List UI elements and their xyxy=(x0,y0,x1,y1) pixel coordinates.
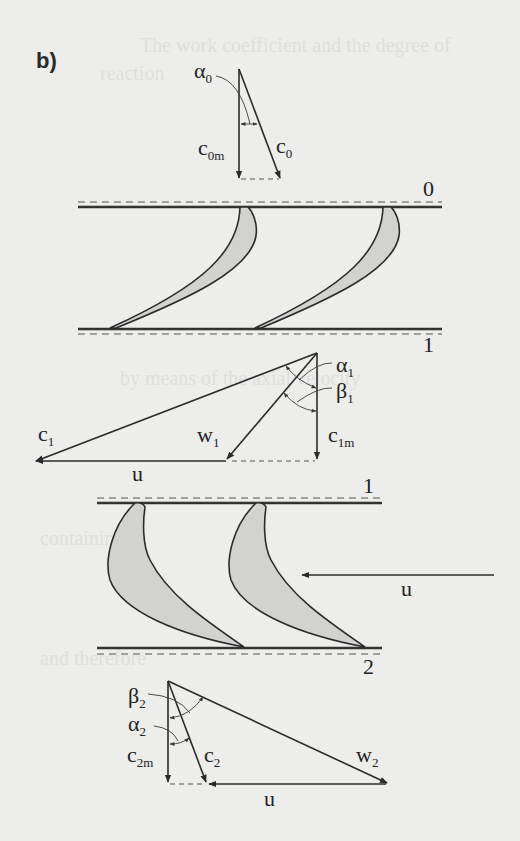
blade-speed-label: u xyxy=(401,576,412,601)
stage2-velocity-triangle: β2 α2 c2m c2 w2 u xyxy=(127,681,387,811)
u1-label: u xyxy=(132,461,143,486)
svg-text:and therefore: and therefore xyxy=(40,647,146,669)
beta2-label: β2 xyxy=(128,683,146,711)
turbine-stage-velocity-diagram: The work coefficient and the degree of r… xyxy=(0,0,520,841)
stator-blade-1 xyxy=(110,207,256,328)
c2-label: c2 xyxy=(204,742,220,770)
alpha2-label: α2 xyxy=(128,711,146,739)
w2-label: w2 xyxy=(356,742,378,770)
c0-vector xyxy=(239,69,280,178)
c2m-label: c2m xyxy=(127,742,153,770)
plane-0-label: 0 xyxy=(423,176,434,201)
rotor-blade-1 xyxy=(108,503,244,647)
stator-blade-2 xyxy=(255,207,399,328)
alpha1-label: α1 xyxy=(336,352,354,380)
alpha2-arc xyxy=(170,738,189,744)
beta1-arc xyxy=(284,393,316,411)
rotor-plane-1-label: 1 xyxy=(363,473,374,498)
panel-label: b) xyxy=(36,48,57,73)
c1m-label: c1m xyxy=(328,422,354,450)
rotor-cascade: 1 2 u xyxy=(97,473,494,679)
stator-cascade: 0 1 xyxy=(78,176,442,357)
c1-label: c1 xyxy=(38,421,54,449)
svg-text:reaction: reaction xyxy=(100,62,164,84)
plane-2-label: 2 xyxy=(363,654,374,679)
inlet-velocity-triangle: α0 c0m c0 xyxy=(194,58,292,179)
svg-text:by means of the axial velocity: by means of the axial velocity xyxy=(120,367,360,390)
alpha0-label: α0 xyxy=(194,58,212,86)
plane-1-label: 1 xyxy=(423,332,434,357)
svg-text:The work coefficient and the d: The work coefficient and the degree of xyxy=(140,34,451,57)
w1-label: w1 xyxy=(197,422,219,450)
u2-label: u xyxy=(264,786,275,811)
c0-label: c0 xyxy=(276,133,292,161)
c0m-label: c0m xyxy=(198,135,224,163)
